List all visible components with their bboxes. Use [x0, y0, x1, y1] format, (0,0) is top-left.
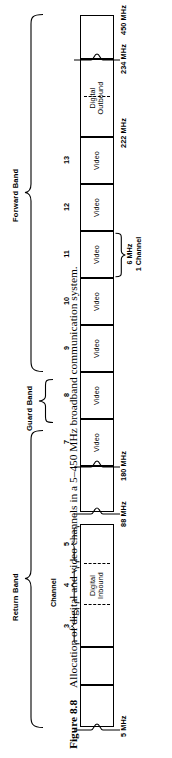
- channel-width-annotation: 6 MHz 1 Channel: [126, 233, 143, 275]
- brace-guard-band: [38, 378, 54, 424]
- brace-forward-band: [24, 13, 44, 373]
- digital-outbound-label: DigitalOutbound: [89, 60, 106, 136]
- band-label-guard: Guard Band: [25, 386, 34, 431]
- freq-mark-88mhz: 88 MHz: [119, 501, 128, 527]
- freq-mark-234mhz: 234 MHz: [119, 44, 128, 74]
- figure-caption-text: Allocation of digital and video channels…: [67, 266, 79, 688]
- figure-caption: Figure 8.8 Allocation of digital and vid…: [67, 9, 87, 749]
- digital-inbound-label: DigitalInbound: [89, 525, 106, 646]
- channel-word-label: Channel: [49, 578, 58, 607]
- freq-mark-222mhz: 222 MHz: [119, 118, 128, 148]
- freq-mark-5mhz: 5 MHz: [119, 715, 128, 737]
- outbound-divider: [84, 96, 110, 97]
- band-label-forward: Forward Band: [11, 169, 20, 222]
- brace-return-band: [24, 429, 44, 729]
- figure-stage: Return Band Guard Band Forward Band: [0, 0, 172, 758]
- inbound-divider-4-5: [84, 563, 110, 564]
- freq-mark-180mhz: 180 MHz: [119, 451, 128, 481]
- freq-mark-450mhz: 450 MHz: [119, 5, 128, 35]
- figure-number: Figure 8.8: [67, 700, 79, 749]
- inbound-divider-3-4: [84, 604, 110, 605]
- band-label-return: Return Band: [11, 573, 20, 621]
